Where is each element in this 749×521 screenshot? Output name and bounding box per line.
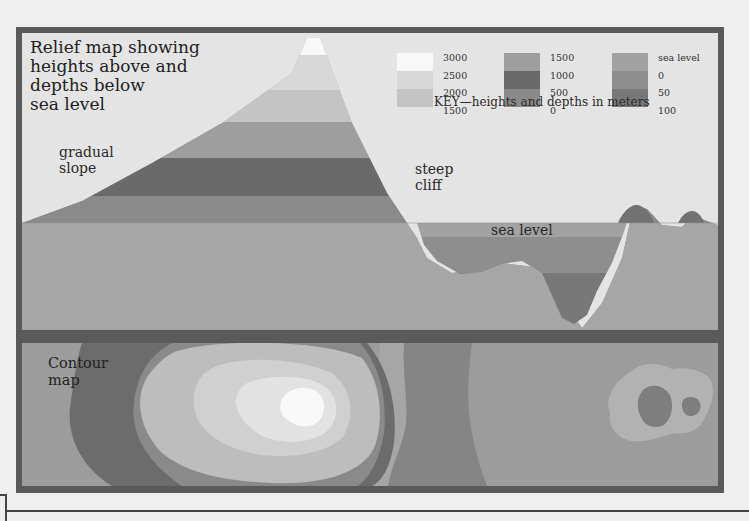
island-left	[618, 205, 654, 223]
key-values-depth: sea level 0 50 100	[658, 49, 700, 119]
contour-map-shapes	[22, 343, 718, 486]
contour-map-label: Contour map	[48, 355, 108, 389]
page-rule	[6, 510, 749, 512]
key-caption: KEY—heights and depths in meters	[434, 95, 650, 109]
relief-map-title: Relief map showing heights above and dep…	[30, 38, 250, 114]
swatch-2500-3000	[397, 53, 433, 71]
sea-level-label: sea level	[491, 222, 553, 238]
swatch-2000-2500	[397, 71, 433, 89]
contour-map-panel	[22, 343, 718, 486]
swatch-1500-2000	[397, 89, 433, 107]
swatch-sealevel-0	[612, 53, 648, 71]
swatch-1000-1500	[504, 53, 540, 71]
key-swatches-high	[397, 53, 433, 107]
island-right	[678, 211, 704, 223]
swatch-500-1000	[504, 71, 540, 89]
swatch-0-50	[612, 71, 648, 89]
crop-mark-vertical	[5, 494, 7, 521]
gradual-slope-label: gradual slope	[59, 144, 114, 176]
steep-cliff-label: steep cliff	[415, 161, 453, 193]
